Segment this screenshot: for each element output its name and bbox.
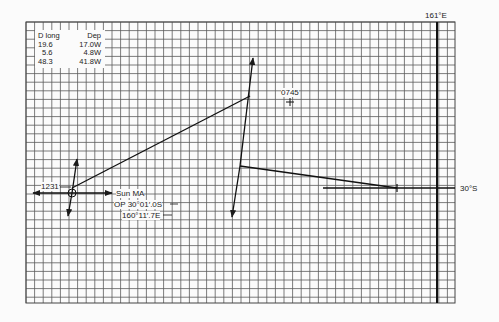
- dlong-column: D long 19.6 5.6 48.3: [38, 32, 60, 66]
- op-latitude-label: OP 30°01′.0S: [114, 200, 162, 209]
- sun-ma-label: Sun MA: [116, 189, 144, 198]
- dlong-value: 48.3: [38, 58, 60, 67]
- dlong-dep-table: D long 19.6 5.6 48.3 Dep 17.0W 4.8W 41.8…: [35, 30, 105, 68]
- lop-line-upper: [240, 58, 253, 166]
- dr-time-label: 0745: [281, 88, 299, 97]
- op-longitude-label: 160°11′.7E: [122, 211, 160, 220]
- dep-value: 41.8W: [79, 58, 101, 67]
- fix-time-label: 1231: [41, 182, 59, 191]
- meridian-label: 161°E: [425, 11, 447, 20]
- fix-lop-upper: [72, 159, 77, 193]
- parallel-label: 30°S: [460, 184, 477, 193]
- lop-line-lower: [232, 166, 240, 217]
- dep-column: Dep 17.0W 4.8W 41.8W: [79, 32, 101, 66]
